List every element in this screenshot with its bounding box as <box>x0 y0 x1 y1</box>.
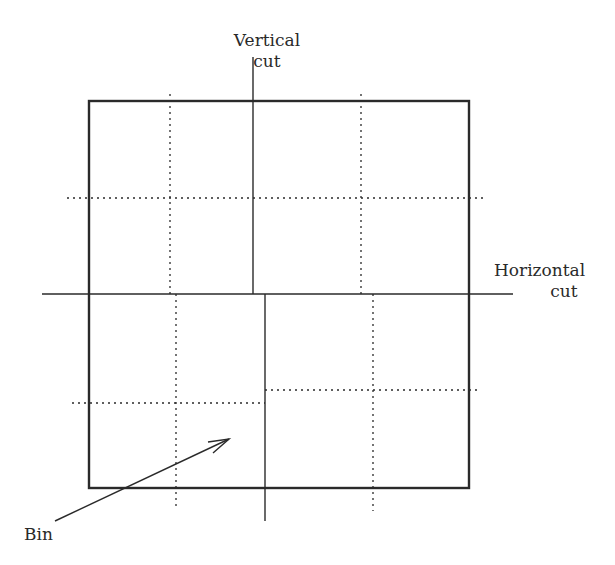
arrow-shaft <box>55 439 229 521</box>
horizontal-cut-label-line2: cut <box>494 281 604 302</box>
bin-arrow <box>55 439 229 521</box>
grid-lines-dotted <box>67 94 487 511</box>
vertical-cut-label-line1: Vertical <box>222 30 312 51</box>
kd-partition-diagram: Vertical cut Horizontal cut Bin <box>0 0 615 565</box>
vertical-cut-label: Vertical cut <box>222 30 312 72</box>
horizontal-cut-label: Horizontal cut <box>494 260 604 302</box>
bin-label: Bin <box>24 524 53 545</box>
vertical-cut-label-line2: cut <box>222 51 312 72</box>
horizontal-cut-label-line1: Horizontal <box>494 260 604 281</box>
arrow-head-icon <box>208 439 229 453</box>
